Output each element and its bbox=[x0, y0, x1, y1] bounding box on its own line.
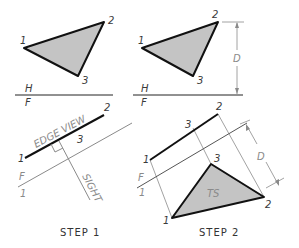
step1-top-label-2: 2 bbox=[108, 15, 114, 26]
step2-caption: STEP 2 bbox=[199, 227, 239, 238]
step1-aux-view: EDGE VIEW SIGHT 1 2 3 F 1 STEP 1 bbox=[18, 102, 132, 238]
step2-edge-view-line bbox=[150, 114, 218, 160]
step2-aux-dim-ext-bottom bbox=[266, 178, 284, 188]
ts-label-2: 2 bbox=[265, 199, 271, 210]
step1-top-triangle bbox=[24, 22, 104, 76]
step1-f1-fold-line bbox=[18, 123, 132, 187]
step1-fold-label-f: F bbox=[25, 97, 31, 108]
descriptive-geometry-diagram: 1 2 3 H F EDGE VIEW SIGHT 1 2 3 F 1 STEP… bbox=[0, 0, 299, 248]
dim-arrow-up bbox=[235, 22, 239, 28]
step2-top-triangle bbox=[142, 22, 218, 76]
true-shape-label: TS bbox=[207, 188, 220, 199]
step2-aux-dimension-label: D bbox=[257, 151, 265, 162]
step2-top-label-3: 3 bbox=[197, 75, 203, 86]
step2-aux-dim-ext-top bbox=[240, 120, 250, 124]
step1-fold-label-h: H bbox=[25, 83, 33, 94]
step2-top-label-1: 1 bbox=[138, 35, 144, 46]
step2-fold-label-h: H bbox=[141, 83, 149, 94]
step2-top-label-2: 2 bbox=[212, 9, 218, 20]
step2-fold-label-1-aux: 1 bbox=[139, 187, 145, 198]
step2-edge-label-3: 3 bbox=[185, 119, 191, 130]
dim-arrow-down bbox=[235, 88, 239, 94]
step2-fold-label-f: F bbox=[141, 97, 147, 108]
step2-edge-label-2: 2 bbox=[216, 101, 222, 112]
step2-top-dimension-label: D bbox=[233, 53, 241, 64]
step2-aux-view: TS D 1 2 3 F 1 1 2 3 STEP 2 bbox=[137, 101, 284, 238]
step1-aux-label-3: 3 bbox=[77, 134, 83, 145]
step1-caption: STEP 1 bbox=[60, 227, 100, 238]
step1-aux-label-1: 1 bbox=[18, 153, 24, 164]
step2-top-view: 1 2 3 H F D bbox=[133, 9, 244, 108]
step2-edge-label-1: 1 bbox=[143, 154, 149, 165]
step1-aux-label-2: 2 bbox=[104, 102, 110, 113]
step1-fold-label-f-aux: F bbox=[19, 171, 25, 182]
step1-fold-label-1-aux: 1 bbox=[20, 188, 26, 199]
step1-top-label-1: 1 bbox=[20, 35, 26, 46]
step2-fold-label-f-aux: F bbox=[138, 172, 144, 183]
step1-top-label-3: 3 bbox=[82, 75, 88, 86]
step1-top-view: 1 2 3 H F bbox=[15, 15, 114, 108]
ts-label-1: 1 bbox=[163, 215, 169, 226]
step1-sight-line bbox=[59, 141, 90, 200]
ts-label-3: 3 bbox=[214, 153, 220, 164]
